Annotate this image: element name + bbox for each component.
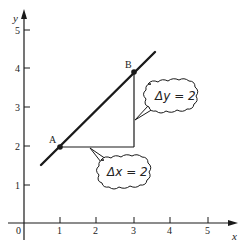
x-axis-label: x [231,230,237,242]
y-ticks [24,30,30,185]
y-axis-arrow-icon [21,9,27,19]
slope-figure: 1 2 3 4 5 y 1 2 3 4 5 0 x A B Δy = 2 Δx … [0,0,249,249]
x-tick-label: 5 [205,225,210,236]
x-axis-arrow-icon [228,220,238,226]
x-tick-label: 4 [167,225,172,236]
point-b-marker [131,69,137,75]
y-tick-label: 4 [15,63,20,74]
x-tick-label: 2 [93,225,98,236]
y-axis-label: y [12,12,18,24]
delta-y-text: Δy = 2 [154,89,196,103]
y-tick-label: 2 [15,141,20,152]
y-tick-label: 1 [15,180,20,191]
y-tick-label: 3 [15,102,20,113]
x-ticks [60,217,208,223]
point-a-label: A [49,134,57,145]
point-a-marker [57,144,63,150]
x-tick-label: 1 [57,225,62,236]
x-tick-label: 3 [131,225,136,236]
origin-label: 0 [16,225,21,236]
point-b-label: B [125,59,132,70]
y-tick-label: 5 [15,25,20,36]
delta-x-text: Δx = 2 [106,165,148,179]
